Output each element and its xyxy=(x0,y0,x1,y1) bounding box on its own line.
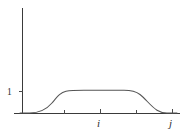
x-label-j: j xyxy=(167,117,172,129)
plateau-curve xyxy=(20,90,177,113)
x-label-i: i xyxy=(97,117,100,129)
y-tick-label-1: 1 xyxy=(7,87,12,97)
plot-svg: 1 i j xyxy=(0,0,188,130)
figure-container: 1 i j xyxy=(0,0,188,130)
